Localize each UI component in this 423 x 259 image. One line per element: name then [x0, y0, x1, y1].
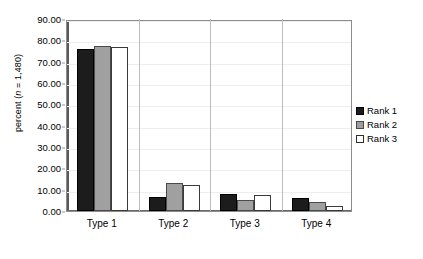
bar — [183, 185, 200, 211]
y-tick-label: 30.00 — [14, 143, 61, 153]
bar-chart: percent (n = 1,480) 0.0010.0020.0030.004… — [0, 0, 423, 259]
y-tick-mark — [62, 84, 65, 85]
x-axis-label: Type 4 — [301, 218, 331, 230]
legend-label: Rank 2 — [367, 120, 397, 130]
category-separator — [282, 19, 283, 211]
bar — [77, 49, 94, 211]
y-tick-label: 10.00 — [14, 186, 61, 196]
y-tick-label: 70.00 — [14, 58, 61, 68]
y-tick-mark — [62, 41, 65, 42]
bar-group-bars — [67, 19, 139, 211]
y-axis-ticks: 0.0010.0020.0030.0040.0050.0060.0070.008… — [14, 20, 61, 212]
legend-label: Rank 3 — [367, 134, 397, 144]
legend-label: Rank 1 — [367, 106, 397, 116]
legend-item: Rank 1 — [356, 104, 397, 118]
bar — [326, 206, 343, 211]
y-tick-label: 50.00 — [14, 101, 61, 111]
category-separator — [210, 19, 211, 211]
bar — [220, 194, 237, 211]
bar — [166, 183, 183, 211]
category-separator — [139, 19, 140, 211]
bar-group — [67, 19, 139, 211]
x-axis-label: Type 2 — [158, 218, 188, 230]
bar-group-bars — [282, 19, 354, 211]
y-tick-label: 0.00 — [14, 207, 61, 217]
legend-swatch-icon — [356, 135, 364, 143]
bar-group — [210, 19, 282, 211]
bar — [111, 47, 128, 211]
legend-item: Rank 3 — [356, 132, 397, 146]
legend-swatch-icon — [356, 121, 364, 129]
bar-group — [139, 19, 211, 211]
y-tick-mark — [62, 212, 65, 213]
bar — [237, 200, 254, 211]
x-axis-label: Type 1 — [87, 218, 117, 230]
bar — [309, 202, 326, 211]
x-axis-labels: Type 1Type 2Type 3Type 4 — [66, 218, 352, 234]
y-tick-mark — [62, 20, 65, 21]
y-tick-label: 40.00 — [14, 122, 61, 132]
bar — [292, 198, 309, 211]
y-tick-label: 80.00 — [14, 37, 61, 47]
y-tick-mark — [62, 62, 65, 63]
y-tick-mark — [62, 169, 65, 170]
y-tick-label: 90.00 — [14, 15, 61, 25]
y-tick-mark — [62, 148, 65, 149]
y-tick-label: 20.00 — [14, 165, 61, 175]
y-tick-mark — [62, 126, 65, 127]
y-tick-mark — [62, 190, 65, 191]
y-tick-label: 60.00 — [14, 79, 61, 89]
legend-item: Rank 2 — [356, 118, 397, 132]
bar — [94, 46, 111, 211]
y-tick-mark — [62, 105, 65, 106]
legend-swatch-icon — [356, 107, 364, 115]
bar-group — [282, 19, 354, 211]
bar — [254, 195, 271, 211]
bar-group-bars — [139, 19, 211, 211]
x-axis-label: Type 3 — [230, 218, 260, 230]
plot-inner — [67, 21, 351, 211]
plot-area — [66, 20, 352, 212]
legend: Rank 1Rank 2Rank 3 — [356, 104, 397, 146]
bar-group-bars — [210, 19, 282, 211]
bar — [149, 197, 166, 211]
